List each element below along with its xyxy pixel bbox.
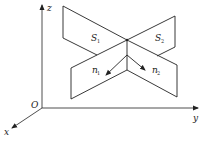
normal-n2-subscript: 2 bbox=[157, 70, 160, 76]
z-axis-label: z bbox=[46, 3, 52, 13]
plane-s2-subscript: 2 bbox=[161, 38, 164, 44]
planes bbox=[63, 6, 177, 99]
origin-label: O bbox=[31, 100, 39, 110]
plane-s2-back-panel bbox=[127, 16, 175, 56]
x-axis bbox=[12, 108, 42, 128]
plane-s1-subscript: 1 bbox=[97, 38, 100, 44]
x-axis-label: x bbox=[4, 127, 9, 137]
plane-s1-back-panel bbox=[63, 6, 127, 55]
normal-n1-subscript: 1 bbox=[97, 70, 100, 76]
axes bbox=[12, 5, 198, 128]
normal-n2-arrow bbox=[127, 55, 145, 70]
dihedral-angle-diagram: z y x O S 1 S 2 n 1 n 2 bbox=[0, 0, 203, 145]
normal-vectors bbox=[106, 55, 145, 75]
intersection-point bbox=[126, 39, 128, 41]
y-axis-label: y bbox=[192, 113, 199, 123]
